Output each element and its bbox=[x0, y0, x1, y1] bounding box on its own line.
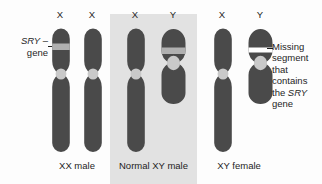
chromosome-xy-female-y bbox=[247, 27, 274, 107]
missing-segment-callout-line4: contains bbox=[272, 75, 307, 86]
chromosome-label-normal-xy-x: X bbox=[122, 9, 148, 20]
sry-gene-annotation-dash: – bbox=[40, 35, 48, 46]
chromosome-label-xy-female-y: Y bbox=[247, 9, 273, 20]
chromosome-label-xx-male-x1: X bbox=[47, 9, 73, 20]
missing-segment-callout: Missing segment that contains the SRY ge… bbox=[272, 41, 308, 109]
sry-gene-annotation-word: gene bbox=[27, 47, 48, 58]
missing-segment-callout-line1: Missing bbox=[272, 41, 304, 52]
centromere-xx-male-x2 bbox=[88, 68, 99, 79]
group-label-normal-xy-male: Normal XY male bbox=[110, 160, 197, 171]
centromere-normal-xy-y bbox=[167, 56, 180, 70]
chromosome-normal-xy-x bbox=[125, 27, 147, 155]
chromosome-label-xx-male-x2: X bbox=[79, 9, 105, 20]
chromosome-label-normal-xy-y: Y bbox=[160, 9, 186, 20]
group-label-xy-female: XY female bbox=[199, 160, 279, 171]
group-label-xx-male: XX male bbox=[43, 160, 111, 171]
chromosome-normal-xy-y bbox=[160, 27, 187, 107]
missing-segment-callout-gene-name: SRY bbox=[288, 87, 307, 98]
chromosome-label-xy-female-x: X bbox=[209, 9, 235, 20]
centromere-xy-female-y bbox=[254, 56, 267, 70]
missing-segment-leader-line bbox=[267, 48, 273, 49]
missing-segment-callout-line5-prefix: the bbox=[272, 87, 288, 98]
sry-gene-annotation: SRY – gene bbox=[8, 35, 48, 58]
centromere-xx-male-x1 bbox=[56, 68, 67, 79]
sry-band-xx-male-x1 bbox=[52, 44, 70, 51]
chromosome-xx-male-x1 bbox=[50, 27, 72, 155]
missing-segment-callout-line2: segment bbox=[272, 52, 308, 63]
centromere-normal-xy-x bbox=[131, 68, 142, 79]
chromosome-xy-female-x bbox=[212, 27, 234, 155]
centromere-xy-female-x bbox=[218, 68, 229, 79]
missing-segment-callout-line6: gene bbox=[272, 98, 293, 109]
sry-gene-diagram: X X XX male SRY – gene X Y bbox=[0, 0, 322, 184]
sry-gene-annotation-name: SRY bbox=[21, 35, 40, 46]
sry-band-normal-xy-y bbox=[162, 48, 186, 55]
sry-gene-leader-line bbox=[48, 46, 52, 47]
missing-segment-callout-line3: that bbox=[272, 64, 288, 75]
chromosome-xx-male-x2 bbox=[82, 27, 104, 155]
